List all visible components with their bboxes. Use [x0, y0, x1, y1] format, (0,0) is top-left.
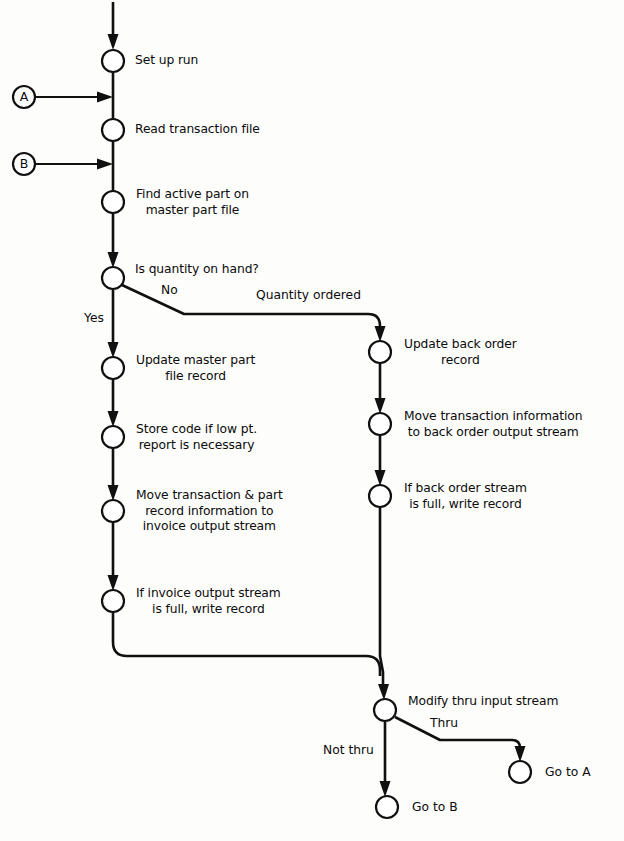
node-label-goto-a: Go to A	[545, 765, 591, 779]
connector-label-a: A	[14, 91, 34, 104]
edge-label-not-thru: Not thru	[323, 743, 374, 757]
node-label-find: Find active part onmaster part file	[136, 187, 249, 218]
node-label-decide-qty: Is quantity on hand?	[135, 262, 259, 278]
edge-updatebo-to-movebo	[375, 363, 386, 414]
node-circle-write-inv	[102, 590, 124, 612]
edge-writeinv-merge-right	[113, 612, 380, 676]
node-circle-store-code	[102, 426, 124, 448]
node-circle-move-inv	[102, 500, 124, 522]
node-label-store-code: Store code if low pt.report is necessary	[136, 422, 257, 453]
edge-movebo-to-writebo	[375, 435, 386, 486]
flowchart-page: A B Set up run Read transaction file Fin…	[0, 0, 624, 841]
node-label-move-inv: Move transaction & partrecord informatio…	[136, 488, 283, 535]
edge-entry-top	[108, 2, 119, 50]
node-circle-find	[102, 191, 124, 213]
node-circle-write-bo	[369, 485, 391, 507]
edge-modifythru-thru	[395, 717, 526, 762]
node-circle-update-mpf	[102, 357, 124, 379]
node-label-setup: Set up run	[135, 53, 198, 69]
node-circle-read	[102, 119, 124, 141]
edge-label-quantity-ordered: Quantity ordered	[256, 288, 361, 302]
node-circle-goto-a	[509, 761, 531, 783]
node-circle-decide-qty	[102, 267, 124, 289]
node-circle-setup	[102, 50, 124, 72]
edge-moveinv-to-writeinv	[108, 522, 119, 591]
node-label-move-bo: Move transaction informationto back orde…	[404, 409, 582, 440]
node-label-update-mpf: Update master partfile record	[136, 353, 255, 384]
edge-modifythru-not-thru	[380, 721, 391, 797]
edge-decide-yes	[108, 289, 119, 358]
connector-label-b: B	[14, 158, 34, 171]
node-label-read: Read transaction file	[135, 122, 260, 138]
edge-storecode-to-moveinv	[108, 448, 119, 501]
edge-find-to-decide	[108, 213, 119, 268]
node-label-update-bo: Update back orderrecord	[404, 337, 517, 368]
node-circle-goto-b	[376, 796, 398, 818]
node-label-write-inv: If invoice output streamis full, write r…	[136, 586, 281, 617]
node-circle-modify-thru	[374, 699, 396, 721]
edge-label-thru: Thru	[430, 716, 458, 730]
node-circle-move-bo	[369, 413, 391, 435]
node-circle-update-bo	[369, 341, 391, 363]
edge-label-yes: Yes	[84, 311, 104, 325]
node-label-write-bo: If back order streamis full, write recor…	[404, 481, 527, 512]
edge-label-no: No	[161, 283, 178, 297]
node-label-modify-thru: Modify thru input stream	[408, 694, 558, 710]
edge-updatempf-to-storecode	[108, 379, 119, 427]
node-label-goto-b: Go to B	[412, 800, 458, 814]
